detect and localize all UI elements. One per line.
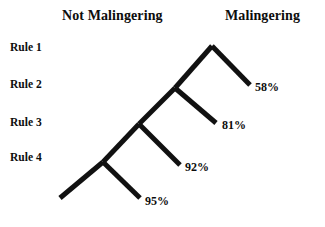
branch-node2-to-node3: [139, 88, 175, 124]
branch-node3-to-node4: [103, 124, 139, 162]
branch-node4-to-not-malingering-leaf: [60, 162, 103, 198]
malingering-decision-tree-figure: Not Malingering Malingering Rule 1 Rule …: [0, 0, 325, 227]
percentage-label-95: 95%: [145, 194, 169, 209]
tree-branch-graphic: [0, 0, 325, 227]
branch-node3-to-leaf-92: [139, 124, 180, 165]
percentage-label-58: 58%: [255, 80, 279, 95]
branch-node2-to-leaf-81: [175, 88, 216, 123]
branch-root-to-leaf-58: [212, 46, 250, 85]
percentage-label-81: 81%: [222, 118, 246, 133]
branch-node4-to-leaf-95: [103, 162, 140, 198]
percentage-label-92: 92%: [185, 160, 209, 175]
branch-root-to-node2: [175, 46, 212, 88]
